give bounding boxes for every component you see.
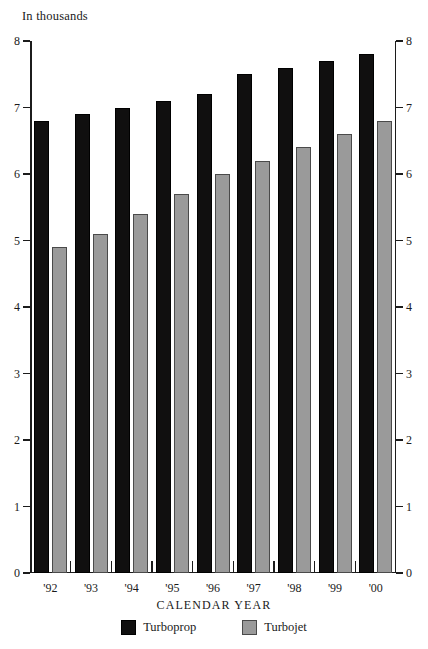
gray-square-swatch bbox=[242, 620, 257, 635]
bar-turbojet-00 bbox=[377, 121, 392, 573]
bar-turboprop-92 bbox=[34, 121, 49, 573]
y-tick-label-right-4: 4 bbox=[406, 301, 428, 313]
y-tick-right-3 bbox=[396, 373, 403, 375]
bar-groups bbox=[30, 41, 396, 573]
y-tick-left-0 bbox=[23, 572, 30, 574]
bar-turbojet-98 bbox=[296, 147, 311, 573]
y-tick-right-4 bbox=[396, 306, 403, 308]
bar-turbojet-95 bbox=[174, 194, 189, 573]
y-tick-right-2 bbox=[396, 439, 403, 441]
y-tick-label-right-5: 5 bbox=[406, 235, 428, 247]
y-tick-label-left-5: 5 bbox=[0, 235, 20, 247]
unit-note: In thousands bbox=[22, 9, 88, 24]
y-tick-left-3 bbox=[23, 373, 30, 375]
bar-group bbox=[30, 41, 71, 573]
bar-turboprop-97 bbox=[237, 74, 252, 573]
y-tick-label-left-2: 2 bbox=[0, 434, 20, 446]
bar-group bbox=[355, 41, 396, 573]
y-tick-right-6 bbox=[396, 173, 403, 175]
bar-turboprop-96 bbox=[197, 94, 212, 573]
bar-turbojet-93 bbox=[93, 234, 108, 573]
y-tick-left-6 bbox=[23, 173, 30, 175]
y-tick-label-right-0: 0 bbox=[406, 567, 428, 579]
x-axis-title: CALENDAR YEAR bbox=[0, 598, 428, 613]
x-axis-label-00: '00 bbox=[355, 581, 396, 597]
x-axis-label-96: '96 bbox=[193, 581, 234, 597]
x-axis-label-92: '92 bbox=[30, 581, 71, 597]
y-tick-label-left-3: 3 bbox=[0, 368, 20, 380]
legend-item-turbojet: Turbojet bbox=[242, 620, 307, 635]
y-tick-label-left-8: 8 bbox=[0, 35, 20, 47]
y-tick-label-left-0: 0 bbox=[0, 567, 20, 579]
x-axis-labels: '92'93'94'95'96'97'98'99'00 bbox=[30, 581, 396, 597]
bar-chart: In thousands 001122334455667788 '92'93'9… bbox=[0, 0, 428, 649]
bar-turboprop-00 bbox=[359, 54, 374, 573]
y-tick-left-4 bbox=[23, 306, 30, 308]
x-axis-label-94: '94 bbox=[111, 581, 152, 597]
bar-group bbox=[193, 41, 234, 573]
bar-turbojet-99 bbox=[337, 134, 352, 573]
plot-area: 001122334455667788 bbox=[30, 41, 396, 573]
bar-turboprop-94 bbox=[115, 108, 130, 574]
bar-turboprop-93 bbox=[75, 114, 90, 573]
chart-legend: TurbopropTurbojet bbox=[0, 620, 428, 635]
y-tick-label-right-3: 3 bbox=[406, 368, 428, 380]
x-axis-label-99: '99 bbox=[315, 581, 356, 597]
y-tick-left-2 bbox=[23, 439, 30, 441]
y-tick-left-8 bbox=[23, 40, 30, 42]
y-tick-label-left-1: 1 bbox=[0, 501, 20, 513]
x-axis-label-97: '97 bbox=[233, 581, 274, 597]
y-tick-label-left-7: 7 bbox=[0, 102, 20, 114]
bar-group bbox=[233, 41, 274, 573]
y-tick-left-7 bbox=[23, 107, 30, 109]
legend-item-turboprop: Turboprop bbox=[121, 620, 196, 635]
y-tick-right-7 bbox=[396, 107, 403, 109]
x-axis-label-98: '98 bbox=[274, 581, 315, 597]
legend-label: Turboprop bbox=[143, 620, 196, 635]
bar-turboprop-98 bbox=[278, 68, 293, 573]
bar-turboprop-99 bbox=[319, 61, 334, 573]
bar-group bbox=[274, 41, 315, 573]
y-tick-label-right-8: 8 bbox=[406, 35, 428, 47]
bar-turbojet-94 bbox=[133, 214, 148, 573]
bar-turboprop-95 bbox=[156, 101, 171, 573]
y-tick-label-right-1: 1 bbox=[406, 501, 428, 513]
y-tick-label-left-6: 6 bbox=[0, 168, 20, 180]
y-tick-right-1 bbox=[396, 506, 403, 508]
bar-group bbox=[152, 41, 193, 573]
y-tick-label-right-7: 7 bbox=[406, 102, 428, 114]
y-tick-label-left-4: 4 bbox=[0, 301, 20, 313]
bar-group bbox=[111, 41, 152, 573]
y-tick-left-5 bbox=[23, 240, 30, 242]
legend-label: Turbojet bbox=[264, 620, 307, 635]
y-tick-label-right-6: 6 bbox=[406, 168, 428, 180]
x-axis-label-95: '95 bbox=[152, 581, 193, 597]
bar-turbojet-97 bbox=[255, 161, 270, 573]
y-tick-label-right-2: 2 bbox=[406, 434, 428, 446]
bar-turbojet-92 bbox=[52, 247, 67, 573]
y-tick-right-0 bbox=[396, 572, 403, 574]
y-tick-right-5 bbox=[396, 240, 403, 242]
y-tick-right-8 bbox=[396, 40, 403, 42]
bar-group bbox=[71, 41, 112, 573]
y-tick-left-1 bbox=[23, 506, 30, 508]
bar-group bbox=[315, 41, 356, 573]
bar-turbojet-96 bbox=[215, 174, 230, 573]
black-square-swatch bbox=[121, 620, 136, 635]
x-axis-label-93: '93 bbox=[71, 581, 112, 597]
